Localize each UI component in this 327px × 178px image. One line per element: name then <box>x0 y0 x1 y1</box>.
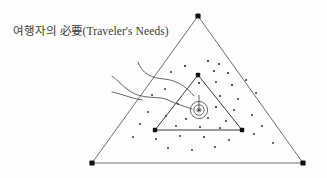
inner-vertex-apex-marker <box>196 73 200 77</box>
scatter-dot <box>167 147 169 149</box>
diagram-background <box>0 0 327 178</box>
inner-vertex-bottom-left-marker <box>153 128 157 132</box>
scatter-dot <box>251 114 253 116</box>
scatter-dot <box>164 88 166 90</box>
scatter-dot <box>245 79 247 81</box>
scatter-dot <box>214 146 216 148</box>
traveler-needs-diagram <box>0 0 327 178</box>
scatter-dot <box>175 125 177 127</box>
scatter-dot <box>191 149 193 151</box>
scatter-dot <box>219 95 221 97</box>
scatter-dot <box>132 136 134 138</box>
scatter-dot <box>198 82 200 84</box>
scatter-dot <box>215 106 217 108</box>
scatter-dot <box>261 125 263 127</box>
scatter-dot <box>139 123 141 125</box>
scatter-dot <box>147 111 149 113</box>
scatter-dot <box>184 65 186 67</box>
scatter-dot <box>227 72 229 74</box>
scatter-dot <box>228 139 230 141</box>
scatter-dot <box>199 126 201 128</box>
scatter-dot <box>185 118 187 120</box>
scatter-dot <box>225 120 227 122</box>
figure-root: 여행자의 必要(Traveler's Needs) <box>0 0 327 178</box>
spiral-center-dot <box>198 109 200 111</box>
scatter-dot <box>179 135 181 137</box>
inner-vertex-bottom-right-marker <box>240 128 244 132</box>
scatter-dot <box>151 94 153 96</box>
scatter-dot <box>233 109 235 111</box>
scatter-dot <box>155 138 157 140</box>
scatter-dot <box>231 84 233 86</box>
scatter-dot <box>203 136 205 138</box>
outer-vertex-bottom-left-marker <box>89 160 94 165</box>
scatter-dot <box>207 117 209 119</box>
scatter-dot <box>218 63 220 65</box>
scatter-dot <box>207 60 209 62</box>
scatter-dot <box>213 70 215 72</box>
scatter-dot <box>255 92 257 94</box>
outer-vertex-bottom-right-marker <box>300 160 305 165</box>
scatter-dot <box>170 71 172 73</box>
scatter-dot <box>253 133 255 135</box>
scatter-dot <box>219 127 221 129</box>
scatter-dot <box>272 142 274 144</box>
scatter-dot <box>237 98 239 100</box>
scatter-dot <box>215 81 217 83</box>
outer-vertex-apex-marker <box>195 13 200 18</box>
